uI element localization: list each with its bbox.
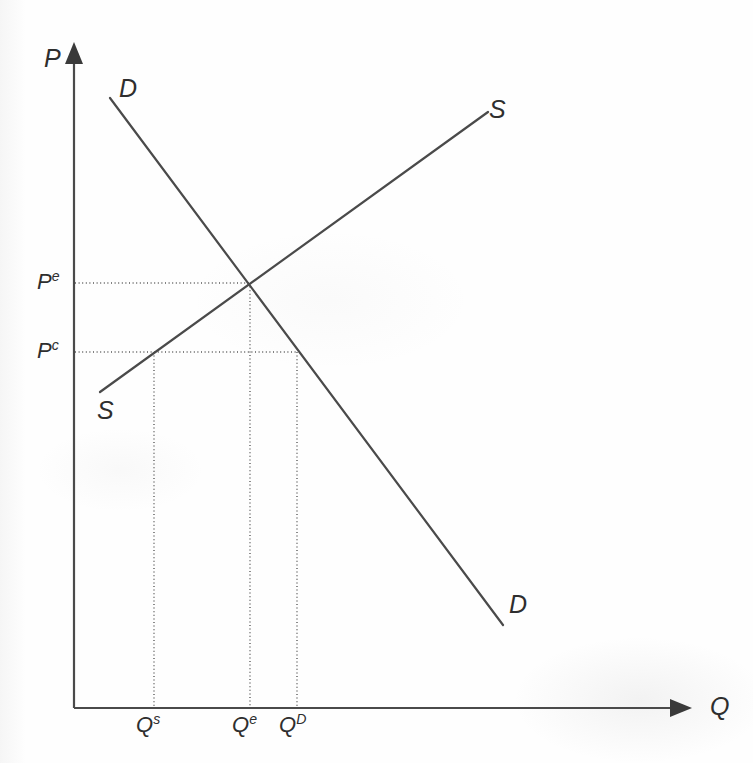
supply-curve [100, 112, 488, 392]
price-axis-arrow-icon [65, 42, 83, 64]
plot-canvas [0, 0, 753, 763]
quantity-tick-demanded: QD [279, 714, 306, 736]
quantity-axis-label: Q [710, 694, 729, 719]
demand-curve [110, 98, 503, 625]
quantity-tick-equilibrium-base: Q [232, 712, 249, 737]
supply-curve-label-bottom: S [97, 398, 114, 423]
quantity-axis-arrow-icon [670, 699, 692, 717]
price-tick-equilibrium-base: P [37, 269, 52, 294]
guide-lines-group [75, 283, 298, 707]
price-axis-label: P [44, 46, 61, 71]
supply-curve-label-top: S [489, 97, 506, 122]
quantity-tick-demanded-sup: D [296, 711, 306, 727]
quantity-tick-supplied-sup: s [153, 711, 160, 727]
quantity-tick-equilibrium-sup: e [249, 711, 257, 727]
demand-curve-label-top: D [119, 76, 137, 101]
supply-demand-figure: P Q D D S S Pe Pc Qs Qe QD [0, 0, 753, 763]
price-tick-ceiling: Pc [37, 340, 59, 362]
price-tick-equilibrium: Pe [37, 271, 60, 293]
price-tick-equilibrium-sup: e [52, 268, 60, 284]
curves-group [100, 98, 503, 625]
quantity-tick-supplied-base: Q [136, 712, 153, 737]
price-tick-ceiling-sup: c [52, 337, 59, 353]
price-tick-ceiling-base: P [37, 338, 52, 363]
quantity-tick-supplied: Qs [136, 714, 160, 736]
quantity-tick-equilibrium: Qe [232, 714, 257, 736]
axes-group [65, 42, 692, 717]
quantity-tick-demanded-base: Q [279, 712, 296, 737]
demand-curve-label-bottom: D [509, 592, 527, 617]
